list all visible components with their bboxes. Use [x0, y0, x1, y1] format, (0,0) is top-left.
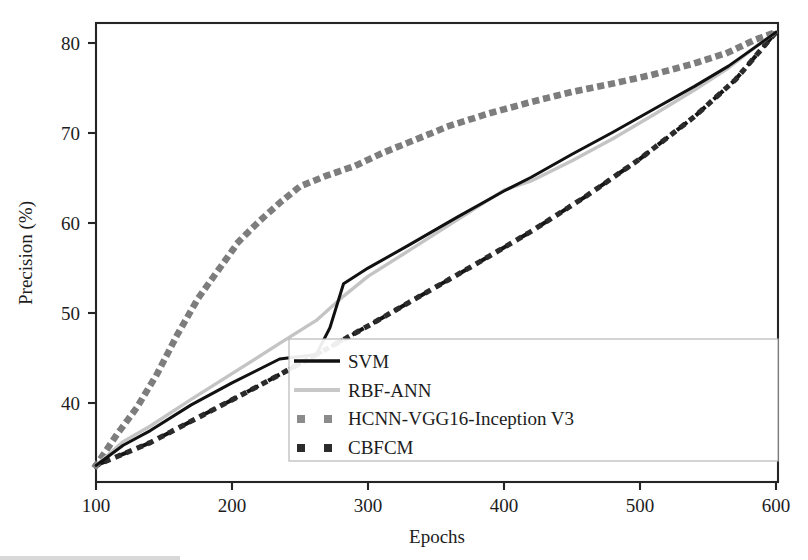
x-tick-label-500: 500 — [626, 495, 655, 516]
legend-label-cbfcm: CBFCM — [348, 437, 414, 458]
legend-swatch-cbfcm-square-2 — [324, 444, 332, 452]
x-tick-label-400: 400 — [490, 495, 519, 516]
x-axis-title: Epochs — [409, 526, 465, 547]
x-tick-label-200: 200 — [218, 495, 247, 516]
legend-swatch-hcnn-square-2 — [324, 415, 332, 423]
legend-label-rbf-ann: RBF-ANN — [348, 380, 432, 401]
y-axis-title: Precision (%) — [15, 201, 37, 305]
y-tick-label-50: 50 — [61, 303, 80, 324]
y-tick-label-40: 40 — [61, 393, 80, 414]
chart-figure: 80 70 60 50 40 100 200 300 400 500 600 E… — [0, 0, 808, 560]
legend-swatch-hcnn-square-1 — [297, 415, 305, 423]
y-axis-ticks — [88, 43, 96, 403]
legend-label-svm: SVM — [348, 351, 389, 372]
legend-label-hcnn-vgg16-inception-v3: HCNN-VGG16-Inception V3 — [348, 408, 574, 429]
precision-vs-epochs-chart: 80 70 60 50 40 100 200 300 400 500 600 E… — [0, 0, 808, 560]
y-tick-label-60: 60 — [61, 213, 80, 234]
x-tick-label-300: 300 — [354, 495, 383, 516]
legend-swatch-cbfcm-square-1 — [297, 444, 305, 452]
x-tick-label-100: 100 — [82, 495, 111, 516]
x-axis-ticks — [96, 482, 776, 490]
y-tick-label-80: 80 — [61, 33, 80, 54]
x-tick-label-600: 600 — [762, 495, 791, 516]
y-tick-label-70: 70 — [61, 123, 80, 144]
chart-legend: SVM RBF-ANN HCNN-VGG16-Inception V3 CBFC… — [289, 339, 778, 461]
scan-artifact — [0, 556, 180, 560]
